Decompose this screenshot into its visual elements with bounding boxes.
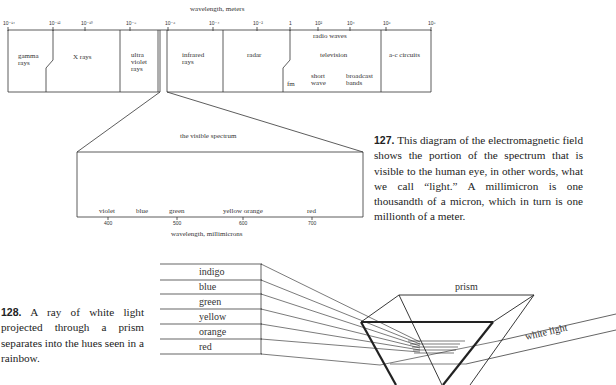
- tick-700: 700: [308, 220, 317, 226]
- color-red: red: [307, 207, 316, 215]
- region-radar: radar: [247, 51, 262, 59]
- tick-label: 10⁻¹⁰: [81, 20, 93, 26]
- tick-500: 500: [173, 220, 182, 226]
- tick-label: 10⁴: [347, 20, 355, 26]
- visible-axis-title: wavelength, millimicrons: [171, 230, 243, 238]
- region-fm: fm: [287, 80, 295, 88]
- region-ac-circuits: a-c circuits: [389, 51, 420, 59]
- band-green: green: [199, 296, 221, 307]
- region-radio-waves: radio waves: [313, 32, 347, 40]
- color-blue: blue: [136, 207, 148, 215]
- caption-128-number: 128.: [1, 306, 21, 318]
- caption-127-text: This diagram of the electromagnetic fiel…: [374, 134, 583, 222]
- tick-label: 10⁻⁶: [165, 20, 175, 26]
- tick-label: 1: [289, 20, 292, 26]
- band-orange: orange: [199, 326, 227, 337]
- region-infrared-2: rays: [182, 58, 194, 66]
- caption-128: 128. A ray of white light projected thro…: [1, 305, 144, 366]
- band-red: red: [199, 341, 212, 352]
- visible-spectrum-title: the visible spectrum: [180, 132, 237, 140]
- tick-label: 10⁶: [383, 20, 391, 26]
- tick-label: 10⁻²: [253, 20, 263, 26]
- tick-600: 600: [239, 220, 248, 226]
- band-indigo: indigo: [199, 266, 225, 277]
- region-broadcast-2: bands: [346, 79, 363, 87]
- tick-400: 400: [104, 220, 113, 226]
- caption-128-text: A ray of white light projected through a…: [1, 306, 144, 364]
- tick-label: 10²: [315, 20, 323, 26]
- color-violet: violet: [99, 207, 115, 215]
- region-xrays: X rays: [73, 53, 92, 61]
- em-axis-title: wavelength, meters: [190, 5, 245, 13]
- band-blue: blue: [199, 281, 217, 292]
- band-yellow: yellow: [199, 311, 227, 322]
- color-yellow-orange: yellow orange: [223, 207, 263, 215]
- prism-label: prism: [455, 281, 478, 292]
- tick-label: 10⁻⁴: [209, 20, 219, 26]
- tick-label: 10⁻¹⁴: [3, 20, 15, 26]
- tick-label: 10⁻⁸: [126, 20, 136, 26]
- region-television: television: [320, 51, 348, 59]
- tick-label: 10⁸: [428, 20, 436, 26]
- color-green: green: [169, 207, 185, 215]
- region-gamma-2: rays: [18, 59, 30, 67]
- caption-127: 127. This diagram of the electromagnetic…: [374, 133, 583, 225]
- region-short-wave-2: wave: [311, 79, 326, 87]
- caption-127-number: 127.: [374, 134, 394, 146]
- region-ultraviolet-3: rays: [131, 65, 143, 73]
- tick-label: 10⁻¹²: [49, 20, 61, 26]
